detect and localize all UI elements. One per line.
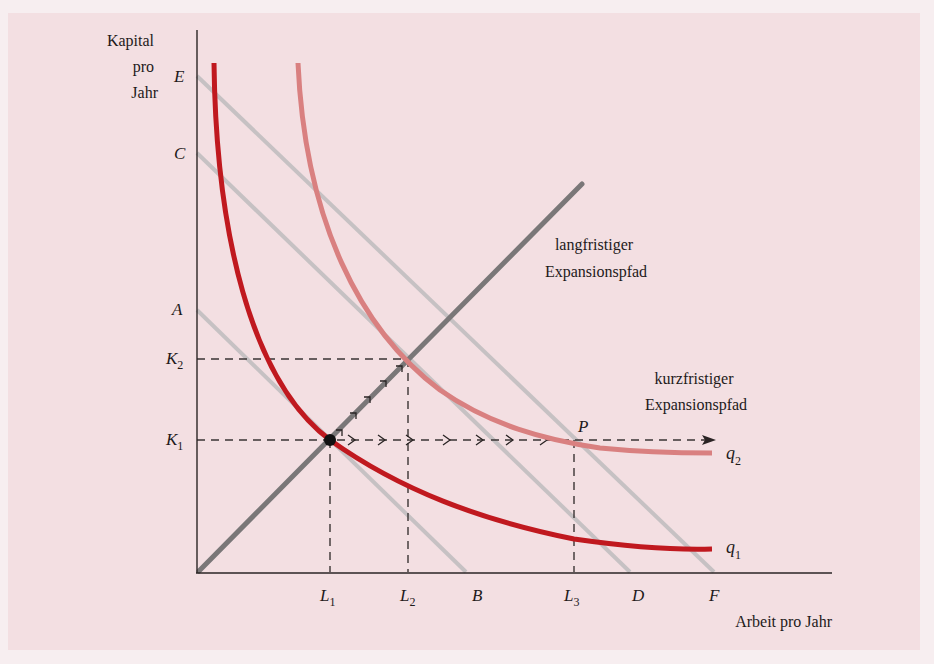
- tangency-point: [324, 434, 336, 446]
- x-tick-L3: L3: [563, 586, 579, 609]
- y-tick-A: A: [171, 300, 183, 319]
- y-tick-E: E: [173, 67, 185, 86]
- short-run-direction-chevrons: [348, 435, 547, 445]
- x-tick-L2: L2: [399, 586, 415, 609]
- y-axis-label: Kapital pro Jahr: [107, 32, 159, 101]
- y-tick-K2: K2: [165, 349, 183, 372]
- dashed-guides: [197, 359, 706, 572]
- x-tick-B: B: [472, 586, 483, 605]
- long-run-path-label: langfristiger Expansionspfad: [545, 236, 647, 281]
- point-P-label: P: [577, 417, 588, 436]
- q1-label: q1: [726, 537, 741, 562]
- expansion-path-diagram: Kapital pro Jahr E C A K2 K1 L1 L2 B L3 …: [0, 0, 934, 664]
- x-tick-L1: L1: [319, 586, 335, 609]
- q2-label: q2: [726, 443, 741, 468]
- x-tick-D: D: [631, 586, 645, 605]
- y-tick-C: C: [174, 144, 186, 163]
- x-tick-F: F: [708, 586, 720, 605]
- short-run-path-label: kurzfristiger Expansionspfad: [645, 370, 747, 414]
- isoquant-q2: [298, 63, 712, 453]
- y-tick-K1: K1: [165, 430, 183, 453]
- long-run-expansion-path: [199, 184, 582, 571]
- x-axis-label: Arbeit pro Jahr: [735, 613, 833, 631]
